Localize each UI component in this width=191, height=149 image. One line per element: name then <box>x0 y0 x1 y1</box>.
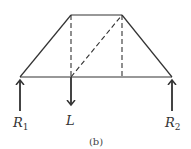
left-chord <box>20 15 71 77</box>
truss-solid-members <box>20 15 172 77</box>
figure-caption: (b) <box>89 136 103 147</box>
right-chord <box>122 15 172 77</box>
diagonal-dashed <box>71 15 122 77</box>
truss-dashed-members <box>71 15 122 77</box>
label-load: L <box>65 113 75 128</box>
label-r1: R1 <box>12 115 29 132</box>
truss-diagram: R1 L R2 (b) <box>0 0 191 149</box>
force-arrows <box>20 77 172 111</box>
label-r2: R2 <box>164 115 181 132</box>
